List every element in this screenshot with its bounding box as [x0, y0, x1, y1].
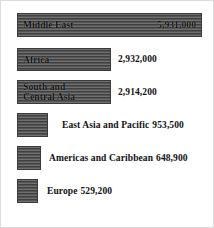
bar-label-and-value: Americas and Caribbean648,900: [41, 153, 188, 164]
bar-label: Americas and Caribbean: [49, 153, 153, 163]
bar-africa[interactable]: Africa: [17, 48, 111, 71]
bar-label: South and Central Asia: [18, 82, 75, 102]
bar-label-and-value: Europe529,200: [38, 186, 112, 197]
bar-row: South and Central Asia 2,914,200: [17, 80, 209, 104]
bar-value: 2,914,200: [111, 87, 157, 98]
bar-value: 2,932,000: [111, 54, 157, 65]
bar-row: Americas and Caribbean648,900: [17, 146, 209, 170]
bar-label: East Asia and Pacific: [62, 120, 149, 130]
bar-value: 648,900: [156, 153, 188, 163]
bar-row: Europe529,200: [17, 179, 209, 203]
bar-value: 953,500: [152, 120, 184, 130]
bar-row: East Asia and Pacific953,500: [17, 113, 209, 137]
bar-label-and-value: East Asia and Pacific953,500: [48, 120, 184, 131]
bar-europe[interactable]: [17, 179, 38, 203]
bar-row: Middle East 5,931,000: [17, 13, 209, 37]
bar-chart: Middle East 5,931,000 Africa 2,932,000 S…: [0, 0, 214, 228]
bar-label: Middle East: [18, 20, 73, 30]
bar-middle-east[interactable]: Middle East 5,931,000: [17, 13, 202, 37]
bar-label: Africa: [18, 55, 49, 65]
bar-label: Europe: [47, 186, 78, 196]
bar-row: Africa 2,932,000: [17, 48, 209, 71]
bar-americas-and-caribbean[interactable]: [17, 146, 41, 170]
bar-value: 529,200: [81, 186, 113, 196]
bar-east-asia-and-pacific[interactable]: [17, 113, 48, 137]
bar-south-and-central-asia[interactable]: South and Central Asia: [17, 80, 111, 104]
chart-plot-area: Middle East 5,931,000 Africa 2,932,000 S…: [17, 13, 209, 221]
bar-value: 5,931,000: [157, 20, 196, 30]
